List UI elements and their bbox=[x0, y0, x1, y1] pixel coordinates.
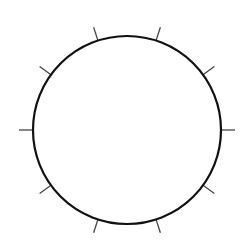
tick-mark bbox=[203, 67, 214, 75]
tick-mark bbox=[40, 67, 51, 75]
tick-mark bbox=[156, 219, 160, 232]
tick-marks bbox=[19, 27, 235, 232]
tick-mark bbox=[40, 185, 51, 193]
tick-mark bbox=[94, 27, 98, 40]
diagram-canvas bbox=[0, 0, 252, 248]
tick-mark bbox=[203, 185, 214, 193]
main-circle bbox=[33, 36, 221, 224]
tick-mark bbox=[156, 27, 160, 40]
circle-diagram bbox=[0, 0, 252, 248]
tick-mark bbox=[94, 219, 98, 232]
